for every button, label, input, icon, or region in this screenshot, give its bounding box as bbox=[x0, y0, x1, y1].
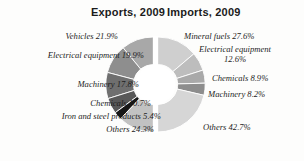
slice-label-imports-others: Others 42.7% bbox=[203, 122, 251, 132]
chart-canvas: Exports, 2009 Imports, 2009 Vehicles 21.… bbox=[0, 0, 304, 161]
chart-title-exports: Exports, 2009 bbox=[91, 6, 165, 18]
slice-label-exports-others: Others 24.3% bbox=[106, 124, 154, 134]
slice-label-exports-vehicles: Vehicles 21.9% bbox=[65, 31, 118, 41]
slice-label-imports-mineral-fuels: Mineral fuels 27.6% bbox=[184, 31, 254, 41]
slice-label-exports-chemicals: Chemicals 10.7% bbox=[90, 98, 151, 108]
slice-label-imports-machinery: Machinery 8.2% bbox=[208, 89, 265, 99]
slice-label-imports-chemicals: Chemicals 8.9% bbox=[212, 73, 268, 83]
slice-label-exports-electrical-equipment: Electrical equipment 19.9% bbox=[48, 50, 144, 60]
slice-label-exports-iron-and-steel: Iron and steel products 5.4% bbox=[62, 111, 161, 121]
slice-label-imports-electrical-equipment: Electrical equipment 12.6% bbox=[196, 44, 274, 64]
chart-title-imports: Imports, 2009 bbox=[167, 6, 241, 18]
slice-label-exports-machinery: Machinery 17.8% bbox=[77, 79, 139, 89]
